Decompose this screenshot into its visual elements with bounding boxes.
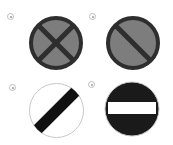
radio-button-b[interactable]: [89, 13, 96, 20]
answer-option-a[interactable]: Clearway (no stopping): [0, 0, 86, 72]
no-stopping-sign-icon: [28, 15, 84, 71]
radio-button-c[interactable]: [9, 84, 16, 91]
radio-button-d[interactable]: [88, 81, 95, 88]
answer-option-b[interactable]: No waiting: [86, 0, 173, 72]
answer-option-c[interactable]: National speed limit applies: [0, 72, 86, 145]
no-waiting-sign-icon: [105, 15, 161, 71]
radio-button-a[interactable]: [7, 13, 14, 20]
national-speed-limit-sign-icon: [28, 82, 85, 139]
answer-option-d[interactable]: No entry: [86, 72, 173, 145]
no-entry-sign-icon: [104, 81, 160, 137]
